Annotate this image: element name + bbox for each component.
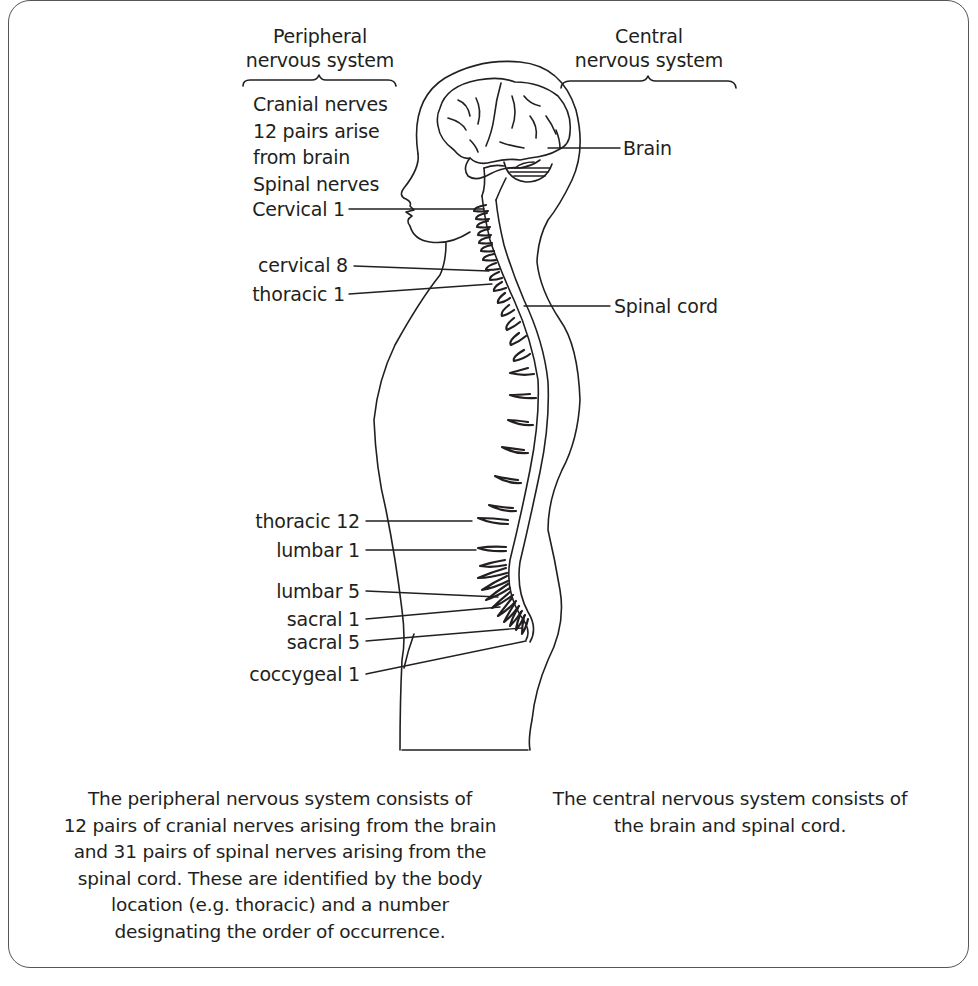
body-outline xyxy=(374,61,580,750)
leader-sacral-1 xyxy=(366,607,500,619)
central-brace xyxy=(561,76,736,88)
label-sacral-5: sacral 5 xyxy=(200,630,360,654)
spinal-cord-drawing xyxy=(482,196,548,642)
peripheral-caption-line: spinal cord. These are identified by the… xyxy=(40,866,520,893)
peripheral-header-line1: Peripheral xyxy=(240,24,400,48)
cranial-nerves-title: Cranial nerves xyxy=(253,91,388,118)
cranial-nerves-line2: 12 pairs arise xyxy=(253,118,388,145)
spinal-nerve-branches xyxy=(474,205,536,551)
peripheral-brace xyxy=(243,75,396,86)
label-lumbar-1: lumbar 1 xyxy=(200,538,360,562)
central-caption-line: The central nervous system consists of xyxy=(540,786,920,813)
leader-coccygeal-1 xyxy=(366,641,526,674)
label-cervical-1: Cervical 1 xyxy=(200,197,345,221)
peripheral-header-line2: nervous system xyxy=(240,48,400,72)
label-thoracic-1: thoracic 1 xyxy=(200,282,345,306)
label-lumbar-5: lumbar 5 xyxy=(200,579,360,603)
leader-thoracic-1 xyxy=(349,284,492,294)
central-header-line1: Central xyxy=(560,24,738,48)
label-cervical-8: cervical 8 xyxy=(200,253,348,277)
leader-sacral-5 xyxy=(366,628,522,641)
peripheral-caption-line: designating the order of occurrence. xyxy=(40,919,520,946)
peripheral-header: Peripheral nervous system xyxy=(240,24,400,72)
central-caption-line: the brain and spinal cord. xyxy=(540,813,920,840)
central-caption: The central nervous system consists of t… xyxy=(540,786,920,839)
peripheral-caption-line: and 31 pairs of spinal nerves arising fr… xyxy=(40,839,520,866)
peripheral-caption-line: The peripheral nervous system consists o… xyxy=(40,786,520,813)
peripheral-caption-line: 12 pairs of cranial nerves arising from … xyxy=(40,813,520,840)
leader-cervical-8 xyxy=(354,266,489,271)
label-spinal-cord: Spinal cord xyxy=(614,294,718,318)
label-brain: Brain xyxy=(623,136,672,160)
peripheral-caption: The peripheral nervous system consists o… xyxy=(40,786,520,945)
peripheral-caption-line: location (e.g. thoracic) and a number xyxy=(40,892,520,919)
brain-drawing xyxy=(437,78,570,200)
spinal-nerves-title: Spinal nerves xyxy=(253,171,388,198)
leader-lumbar-5 xyxy=(366,591,498,597)
label-sacral-1: sacral 1 xyxy=(200,607,360,631)
cranial-nerves-block: Cranial nerves 12 pairs arise from brain… xyxy=(253,91,388,197)
central-header-line2: nervous system xyxy=(560,48,738,72)
central-header: Central nervous system xyxy=(560,24,738,72)
label-coccygeal-1: coccygeal 1 xyxy=(200,662,360,686)
cranial-nerves-line3: from brain xyxy=(253,144,388,171)
label-thoracic-12: thoracic 12 xyxy=(200,509,360,533)
